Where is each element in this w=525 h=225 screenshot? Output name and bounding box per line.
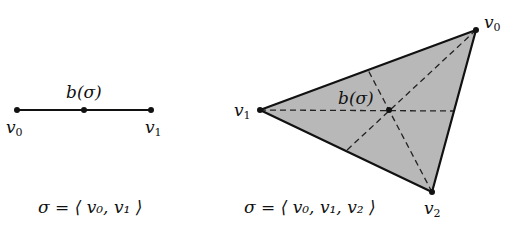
barycenter-dot bbox=[81, 107, 87, 113]
triangle-v0-label: v0 bbox=[484, 12, 501, 34]
segment-simplex: b(σ) v0 v1 σ = ⟨ v₀, v₁ ⟩ bbox=[6, 82, 162, 217]
barycenter-dot bbox=[386, 107, 392, 113]
triangle-v2-label: v2 bbox=[424, 198, 441, 220]
triangle-v1-label: v1 bbox=[234, 100, 251, 122]
vertex-v0-dot bbox=[14, 107, 20, 113]
segment-v0-label: v0 bbox=[6, 117, 23, 139]
segment-barycenter-label: b(σ) bbox=[66, 82, 102, 102]
triangle-barycenter-label: b(σ) bbox=[338, 88, 374, 108]
segment-caption: σ = ⟨ v₀, v₁ ⟩ bbox=[38, 197, 142, 217]
barycenter-diagram: b(σ) v0 v1 σ = ⟨ v₀, v₁ ⟩ b(σ) v0 v1 v2 … bbox=[0, 0, 525, 225]
vertex-v0-dot bbox=[473, 27, 479, 33]
vertex-v1-dot bbox=[257, 107, 263, 113]
vertex-v1-dot bbox=[148, 107, 154, 113]
vertex-v2-dot bbox=[429, 189, 435, 195]
segment-v1-label: v1 bbox=[145, 117, 162, 139]
triangle-simplex: b(σ) v0 v1 v2 σ = ⟨ v₀, v₁, v₂ ⟩ bbox=[234, 12, 501, 220]
triangle-caption: σ = ⟨ v₀, v₁, v₂ ⟩ bbox=[244, 197, 376, 217]
